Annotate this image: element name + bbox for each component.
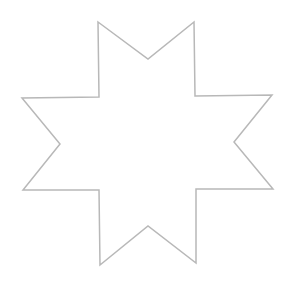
- star-diagram: [0, 0, 291, 295]
- eight-pointed-star-shape: [22, 22, 273, 265]
- drawing-canvas: [0, 0, 291, 295]
